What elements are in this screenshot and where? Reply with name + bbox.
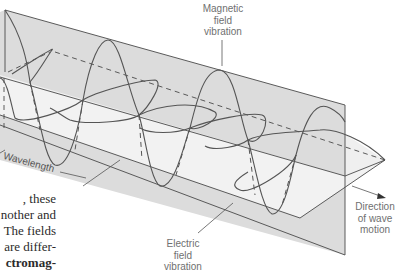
magnetic-field-label: Magnetic field vibration — [198, 3, 248, 38]
body-text-line-1: , these — [0, 191, 56, 207]
direction-label: Direction of wave motion — [352, 201, 398, 236]
body-text-line-4: are differ- — [0, 239, 56, 255]
direction-label-line-3: motion — [352, 224, 398, 236]
magnetic-label-line-3: vibration — [198, 26, 248, 38]
electric-label-line-2: field — [160, 250, 206, 262]
direction-label-line-1: Direction — [352, 201, 398, 213]
em-wave-figure: Magnetic field vibration Electric field … — [0, 0, 398, 273]
magnetic-label-line-2: field — [198, 15, 248, 27]
direction-arrowhead — [377, 193, 386, 199]
electric-field-label: Electric field vibration — [160, 238, 206, 273]
body-text-line-5-bold: ctromag- — [0, 255, 56, 271]
electric-label-line-3: vibration — [160, 261, 206, 273]
em-wave-diagram — [0, 0, 398, 273]
electric-label-line-1: Electric — [160, 238, 206, 250]
direction-label-line-2: of wave — [352, 213, 398, 225]
magnetic-label-line-1: Magnetic — [198, 3, 248, 15]
body-text-fragment: , these nother and The fields are differ… — [0, 191, 56, 271]
body-text-line-2: nother and — [0, 207, 56, 223]
body-text-line-3: The fields — [0, 223, 56, 239]
